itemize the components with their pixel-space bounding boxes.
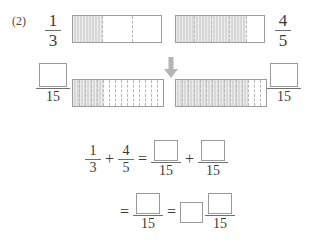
bar-model-fifths bbox=[175, 15, 265, 43]
equation-line-1: 1 3 + 4 5 = 15 + 15 bbox=[85, 139, 228, 179]
mixed-number-fraction[interactable]: 15 bbox=[205, 192, 235, 232]
plus-operator: + bbox=[104, 150, 115, 168]
fraction-answer-left-fifteenths[interactable]: 15 bbox=[36, 62, 70, 105]
mixed-number-whole-box[interactable] bbox=[180, 202, 203, 223]
answer-box-input[interactable] bbox=[136, 193, 160, 214]
fraction-denominator: 5 bbox=[276, 31, 291, 50]
equation-term-four-fifths: 4 5 bbox=[118, 143, 134, 176]
answer-box-input[interactable] bbox=[208, 193, 232, 214]
equation-answer-fraction-2[interactable]: 15 bbox=[198, 139, 228, 179]
fraction-numerator: 1 bbox=[46, 11, 61, 30]
bar-model-fifteenths-right bbox=[175, 79, 267, 107]
fraction-four-fifths: 4 5 bbox=[275, 11, 291, 50]
fraction-denominator: 5 bbox=[120, 160, 133, 176]
fraction-answer-right-fifteenths[interactable]: 15 bbox=[267, 62, 301, 105]
fraction-denominator: 15 bbox=[138, 216, 158, 232]
answer-box-input[interactable] bbox=[154, 140, 178, 161]
fraction-denominator: 15 bbox=[274, 89, 294, 105]
fraction-numerator: 4 bbox=[276, 11, 291, 30]
plus-operator-2: + bbox=[184, 150, 195, 168]
fraction-denominator: 15 bbox=[43, 89, 63, 105]
equals-operator: = bbox=[137, 150, 148, 168]
bar-cell bbox=[246, 16, 264, 42]
answer-box[interactable] bbox=[198, 139, 228, 162]
bar-cell bbox=[157, 80, 163, 106]
bar-model-thirds bbox=[72, 15, 162, 43]
bar-cell bbox=[211, 16, 229, 42]
fraction-denominator: 3 bbox=[46, 31, 61, 50]
answer-box[interactable] bbox=[36, 62, 70, 88]
bar-cell bbox=[260, 80, 266, 106]
mixed-number-answer[interactable]: 15 bbox=[180, 192, 235, 232]
bar-cell bbox=[132, 16, 161, 42]
bar-cell bbox=[176, 16, 194, 42]
answer-box[interactable] bbox=[205, 192, 235, 215]
fraction-denominator: 15 bbox=[210, 216, 230, 232]
fraction-denominator: 15 bbox=[203, 163, 223, 179]
equals-operator-1: = bbox=[119, 203, 130, 221]
equals-operator-2: = bbox=[166, 203, 177, 221]
equation-answer-fraction-1[interactable]: 15 bbox=[151, 139, 181, 179]
answer-box-input[interactable] bbox=[39, 63, 67, 87]
bar-model-fifteenths-left bbox=[72, 79, 164, 107]
answer-box[interactable] bbox=[133, 192, 163, 215]
answer-box[interactable] bbox=[267, 62, 301, 88]
fraction-denominator: 15 bbox=[156, 163, 176, 179]
equation-answer-fraction-3[interactable]: 15 bbox=[133, 192, 163, 232]
bar-cell bbox=[102, 16, 131, 42]
answer-box[interactable] bbox=[151, 139, 181, 162]
fraction-numerator: 1 bbox=[87, 143, 100, 159]
answer-box-input[interactable] bbox=[201, 140, 225, 161]
fraction-one-third: 1 3 bbox=[45, 11, 61, 50]
fraction-numerator: 4 bbox=[120, 143, 133, 159]
equation-term-one-third: 1 3 bbox=[85, 143, 101, 176]
bar-cell bbox=[229, 16, 247, 42]
answer-box-input[interactable] bbox=[270, 63, 298, 87]
equation-line-2: = 15 = 15 bbox=[119, 192, 235, 232]
bar-cell bbox=[194, 16, 212, 42]
bar-cell bbox=[73, 16, 102, 42]
problem-number: (2) bbox=[12, 14, 26, 29]
fraction-denominator: 3 bbox=[87, 160, 100, 176]
